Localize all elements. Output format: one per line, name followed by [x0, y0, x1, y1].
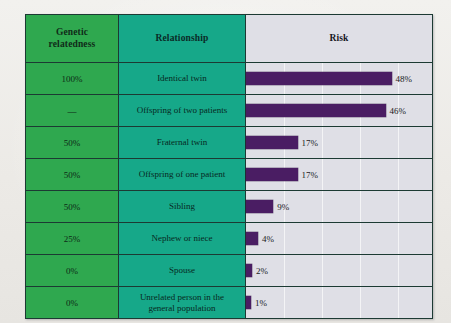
table-row: 100%Identical twin48%	[26, 63, 433, 95]
cell-risk: 1%	[246, 287, 433, 319]
cell-genetic-relatedness: 50%	[26, 159, 119, 191]
cell-relationship: Spouse	[119, 255, 246, 287]
cell-risk: 17%	[246, 127, 433, 159]
risk-bar-label: 17%	[302, 170, 319, 180]
risk-bar-label: 48%	[396, 74, 413, 84]
cell-relationship-line1: Unrelated person in the	[140, 292, 224, 302]
cell-risk: 46%	[246, 95, 433, 127]
cell-genetic-relatedness: 25%	[26, 223, 119, 255]
risk-bar	[246, 136, 298, 149]
column-header-genetic-relatedness-line1: Genetic	[56, 27, 88, 37]
cell-relationship: Unrelated person in thegeneral populatio…	[119, 287, 246, 319]
chart-gridlines	[246, 191, 432, 222]
risk-bar-label: 17%	[302, 138, 319, 148]
cell-genetic-relatedness: —	[26, 95, 119, 127]
risk-bar	[246, 200, 273, 213]
header-row: Genetic relatedness Relationship Risk	[26, 15, 433, 63]
risk-bar-track: 2%	[246, 255, 432, 286]
table-row: 50%Sibling9%	[26, 191, 433, 223]
risk-bar	[246, 296, 251, 309]
table-row: 50%Offspring of one patient17%	[26, 159, 433, 191]
risk-bar-label: 1%	[255, 298, 267, 308]
table-row: 0%Spouse2%	[26, 255, 433, 287]
risk-bar-label: 4%	[262, 234, 274, 244]
cell-relationship: Nephew or niece	[119, 223, 246, 255]
risk-bar-track: 48%	[246, 63, 432, 94]
chart-gridlines	[246, 287, 432, 318]
cell-genetic-relatedness: 0%	[26, 255, 119, 287]
column-header-risk: Risk	[246, 15, 433, 63]
risk-bar-track: 46%	[246, 95, 432, 126]
table-row: —Offspring of two patients46%	[26, 95, 433, 127]
cell-risk: 9%	[246, 191, 433, 223]
cell-relationship: Fraternal twin	[119, 127, 246, 159]
risk-bar	[246, 232, 258, 245]
risk-bar	[246, 72, 392, 85]
table-row: 0%Unrelated person in thegeneral populat…	[26, 287, 433, 319]
table-row: 50%Fraternal twin17%	[26, 127, 433, 159]
cell-genetic-relatedness: 0%	[26, 287, 119, 319]
cell-genetic-relatedness: 50%	[26, 127, 119, 159]
cell-risk: 48%	[246, 63, 433, 95]
column-header-genetic-relatedness: Genetic relatedness	[26, 15, 119, 63]
risk-bar-track: 9%	[246, 191, 432, 222]
cell-relationship-line2: general population	[148, 303, 215, 313]
cell-genetic-relatedness: 50%	[26, 191, 119, 223]
cell-relationship: Identical twin	[119, 63, 246, 95]
risk-bar-track: 17%	[246, 127, 432, 158]
table-row: 25%Nephew or niece4%	[26, 223, 433, 255]
risk-bar	[246, 168, 298, 181]
risk-bar-track: 1%	[246, 287, 432, 318]
figure-page: Genetic relatedness Relationship Risk 10…	[0, 0, 451, 323]
risk-bar-track: 4%	[246, 223, 432, 254]
risk-bar	[246, 104, 386, 117]
cell-risk: 17%	[246, 159, 433, 191]
table-body: 100%Identical twin48%—Offspring of two p…	[26, 63, 433, 319]
cell-relationship: Sibling	[119, 191, 246, 223]
risk-bar-label: 2%	[256, 266, 268, 276]
cell-risk: 4%	[246, 223, 433, 255]
cell-genetic-relatedness: 100%	[26, 63, 119, 95]
column-header-relationship: Relationship	[119, 15, 246, 63]
cell-risk: 2%	[246, 255, 433, 287]
risk-bar	[246, 264, 252, 277]
chart-gridlines	[246, 255, 432, 286]
column-header-genetic-relatedness-line2: relatedness	[49, 39, 96, 49]
risk-bar-track: 17%	[246, 159, 432, 190]
genetic-risk-table: Genetic relatedness Relationship Risk 10…	[25, 14, 433, 319]
risk-bar-label: 46%	[390, 106, 407, 116]
risk-bar-label: 9%	[277, 202, 289, 212]
cell-relationship: Offspring of one patient	[119, 159, 246, 191]
cell-relationship: Offspring of two patients	[119, 95, 246, 127]
table-header: Genetic relatedness Relationship Risk	[26, 15, 433, 63]
